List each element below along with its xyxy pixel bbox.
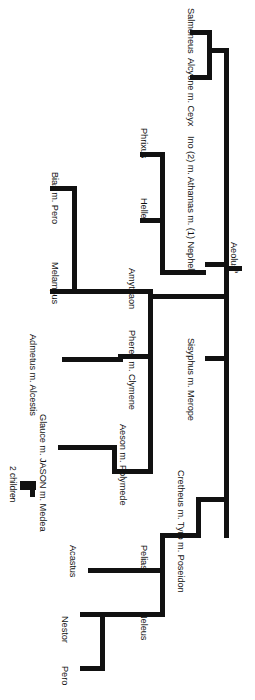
node-pelias: Pelias: [139, 545, 149, 570]
node-helle: Helle: [139, 198, 149, 219]
node-aeson-polymede: Aeson m. Polymede: [118, 424, 128, 506]
node-label: Sisyphus m. Merope: [186, 338, 196, 421]
connector-pelias-arm: [100, 568, 165, 573]
node-neleus: Neleus: [139, 612, 149, 640]
connector-bias-melampus-spine: [72, 186, 77, 294]
node-label: Melampus: [50, 262, 60, 304]
node-label: Phrixus: [139, 128, 149, 158]
node-label: Nestor: [60, 616, 70, 643]
node-salmoneus: Salmoneus: [186, 8, 196, 54]
connector-sisyphus-to-spine: [205, 356, 226, 361]
connector-admetus-arm: [62, 357, 122, 362]
node-label: Bias m. Pero: [50, 172, 60, 224]
node-pero: Pero: [60, 666, 70, 685]
connector-salmoneus-alcyone-spine: [207, 30, 212, 80]
node-label: Pelias: [139, 545, 149, 570]
node-phrixus: Phrixus: [139, 128, 149, 158]
connector-aeolus-spine: [224, 48, 229, 538]
node-label: Salmoneus: [186, 8, 196, 54]
node-cretheus-tyro-poseidon: Cretheus m. Tyro m. Poseidon: [176, 470, 186, 593]
node-label: Cretheus m. Tyro m. Poseidon: [176, 470, 186, 593]
node-label: Helle: [139, 198, 149, 219]
connector-helle-arm: [140, 218, 165, 223]
node-aeolus-root: Aeolusa: [229, 242, 240, 273]
node-label: 2 children: [8, 466, 18, 502]
footnote-marker: a: [234, 270, 240, 273]
node-label: Neleus: [139, 612, 149, 640]
node-label: Aeson m. Polymede: [118, 424, 128, 506]
node-alcyone: Alcyone m. Ceyx: [186, 58, 196, 126]
node-ino-athamas-nephele: Ino (2) m. Athamas m. (1) Nephele: [186, 136, 196, 275]
connector-cretheus-spine: [196, 497, 201, 538]
node-label: Alcyone m. Ceyx: [186, 58, 196, 126]
node-bias-pero: Bias m. Pero: [50, 172, 60, 224]
node-melampus: Melampus: [50, 262, 60, 304]
node-label: Pheres m. Clymene: [127, 330, 137, 410]
node-label: Acastus: [68, 545, 78, 577]
connector-neleus-arm: [100, 612, 165, 617]
node-label: Aeolus: [229, 242, 239, 270]
node-label: Pero: [60, 666, 70, 685]
connector-phrixus-helle-spine: [160, 152, 165, 275]
node-label: Ino (2) m. Athamas m. (1) Nephele: [186, 136, 196, 275]
node-glauce-jason-medea: Glauce m. JASON m. Medea: [38, 414, 48, 531]
node-sisyphus-merope: Sisyphus m. Merope: [186, 338, 196, 421]
two-children-marker: [20, 481, 36, 490]
connector-melampus-arm: [50, 289, 153, 294]
node-acastus: Acastus: [68, 545, 78, 577]
connector-neleus-children-spine: [100, 612, 105, 670]
node-label: Amythaon: [127, 268, 137, 309]
node-admetus-alcestis: Admetus m. Alcestis: [28, 334, 38, 416]
connector-pelias-neleus-spine: [160, 533, 165, 617]
node-two-children: 2 children: [8, 466, 18, 502]
connector-ino-to-spine: [205, 262, 226, 267]
connector-acastus-arm: [88, 568, 105, 573]
connector-amythaon-children-spine: [148, 294, 153, 474]
connector-salmoneus-group-to-spine: [212, 48, 226, 53]
connector-phrixus-group-to-ino: [160, 270, 206, 275]
node-amythaon: Amythaon: [127, 268, 137, 309]
node-pheres-clymene: Pheres m. Clymene: [127, 330, 137, 410]
connector-jason-arm: [58, 445, 117, 450]
connector-nestor-arm: [80, 612, 105, 617]
connector-pero-arm: [80, 666, 105, 671]
node-nestor: Nestor: [60, 616, 70, 643]
node-label: Admetus m. Alcestis: [28, 334, 38, 416]
genealogy-tree: Salmoneus Alcyone m. Ceyx Ino (2) m. Ath…: [0, 0, 255, 700]
connector-amythaon-to-spine: [148, 294, 226, 299]
node-label: Glauce m. JASON m. Medea: [38, 414, 48, 531]
